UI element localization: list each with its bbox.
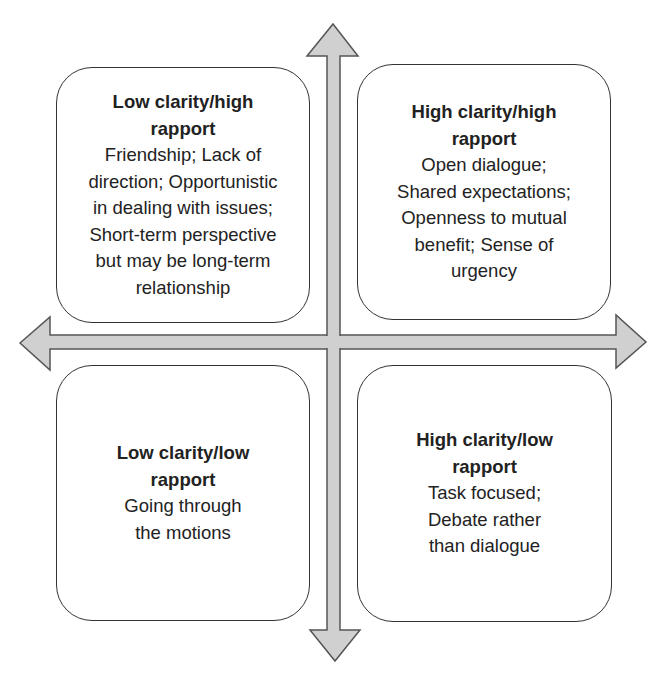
quadrant-low-clarity-high-rapport: Low clarity/high rapport Friendship; Lac… (56, 67, 310, 323)
title-line: Low clarity/low (117, 440, 250, 467)
title-line: Low clarity/high (113, 89, 254, 116)
desc-line: than dialogue (428, 533, 541, 560)
title-line: rapport (416, 454, 553, 481)
horizontal-shaft-right-join (339, 336, 347, 348)
desc-line: Short-term perspective (88, 222, 277, 249)
desc-line: relationship (88, 275, 277, 302)
desc-line: Debate rather (428, 507, 541, 534)
title-line: High clarity/low (416, 427, 553, 454)
quadrant-description: Going through the motions (124, 493, 241, 546)
horizontal-shaft-left-join (320, 336, 328, 348)
title-line: rapport (113, 116, 254, 143)
quadrant-low-clarity-low-rapport: Low clarity/low rapport Going through th… (56, 365, 310, 621)
desc-line: Task focused; (428, 480, 541, 507)
quadrant-high-clarity-high-rapport: High clarity/high rapport Open dialogue;… (357, 64, 611, 320)
title-line: rapport (412, 126, 557, 153)
quadrant-description: Open dialogue; Shared expectations; Open… (397, 152, 571, 285)
axes-intersection (328, 336, 339, 348)
quadrant-title: Low clarity/low rapport (117, 440, 250, 493)
desc-line: Openness to mutual (397, 205, 571, 232)
quadrant-description: Friendship; Lack of direction; Opportuni… (88, 142, 277, 301)
quadrant-title: Low clarity/high rapport (113, 89, 254, 142)
title-line: rapport (117, 467, 250, 494)
desc-line: the motions (124, 520, 241, 547)
desc-line: Friendship; Lack of (88, 142, 277, 169)
quadrant-high-clarity-low-rapport: High clarity/low rapport Task focused; D… (357, 365, 612, 622)
desc-line: in dealing with issues; (88, 195, 277, 222)
desc-line: benefit; Sense of (397, 232, 571, 259)
quadrant-description: Task focused; Debate rather than dialogu… (428, 480, 541, 560)
title-line: High clarity/high (412, 99, 557, 126)
quadrant-title: High clarity/high rapport (412, 99, 557, 152)
desc-line: Open dialogue; (397, 152, 571, 179)
desc-line: direction; Opportunistic (88, 169, 277, 196)
desc-line: but may be long-term (88, 248, 277, 275)
desc-line: urgency (397, 258, 571, 285)
desc-line: Shared expectations; (397, 179, 571, 206)
desc-line: Going through (124, 493, 241, 520)
quadrant-title: High clarity/low rapport (416, 427, 553, 480)
